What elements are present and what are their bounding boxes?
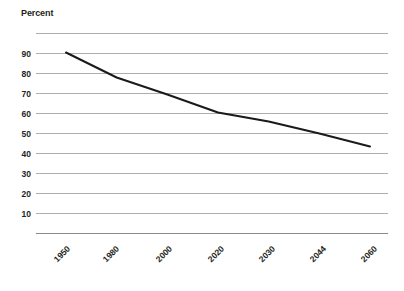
x-tick-label-0: 1950	[52, 243, 73, 264]
x-tick-label-5: 2044	[308, 243, 329, 264]
y-tick-label-10: 10	[22, 209, 32, 219]
y-tick-label-90: 90	[22, 49, 32, 59]
y-tick-label-60: 60	[22, 109, 32, 119]
y-tick-label-80: 80	[22, 69, 32, 79]
gridlines	[36, 34, 388, 214]
chart-container: Percent 90 80 70 60 50 40 30 20 10	[0, 0, 404, 291]
line-chart-plot: 90 80 70 60 50 40 30 20 10 1950 1980 200…	[0, 0, 404, 291]
x-tick-label-1: 1980	[101, 243, 122, 264]
y-tick-label-20: 20	[22, 189, 32, 199]
x-tick-label-4: 2030	[257, 243, 278, 264]
y-axis-tick-labels: 90 80 70 60 50 40 30 20 10	[22, 49, 32, 219]
y-tick-label-40: 40	[22, 149, 32, 159]
data-series-line	[66, 53, 370, 147]
y-tick-label-70: 70	[22, 89, 32, 99]
x-tick-label-6: 2060	[359, 243, 380, 264]
y-tick-label-50: 50	[22, 129, 32, 139]
x-tick-label-2: 2000	[154, 243, 175, 264]
x-tick-label-3: 2020	[206, 243, 227, 264]
y-tick-label-30: 30	[22, 169, 32, 179]
x-axis-tick-labels: 1950 1980 2000 2020 2030 2044 2060	[52, 243, 380, 264]
